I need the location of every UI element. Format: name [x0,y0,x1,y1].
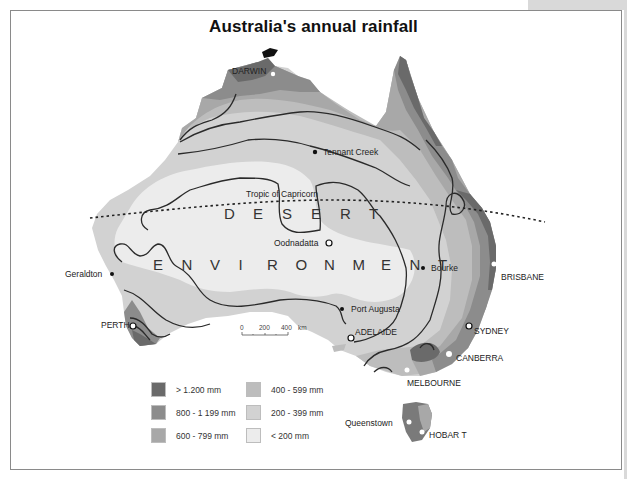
marker-queenstown [407,420,412,425]
scale-unit: km [298,324,307,331]
marker-darwin [271,72,275,76]
scale-tick-400: 400 [281,324,292,331]
legend-swatch [151,382,166,397]
label-perth: PERTH [101,320,130,330]
legend-swatch [246,382,261,397]
label-darwin: DARWIN [232,66,266,76]
scale-bar [242,332,288,335]
label-hobart: HOBAR T [429,430,467,440]
legend-item-over-1200: > 1.200 mm [151,382,221,397]
marker-tennant-creek [313,150,317,154]
legend-item-800-1199: 800 - 1 199 mm [151,405,236,420]
marker-port-augusta [340,307,344,311]
marker-canberra [446,351,452,357]
label-geraldton: Geraldton [65,269,102,279]
label-adelaide: ADELAIDE [355,327,397,337]
label-queenstown: Queenstown [345,418,393,428]
marker-hobart [420,430,425,435]
label-oodnadatta: Oodnadatta [274,238,318,248]
marker-adelaide [348,335,354,341]
label-port-augusta: Port Augusta [351,304,400,314]
label-tennant-creek: Tennant Creek [323,147,378,157]
marker-brisbane [492,262,497,267]
legend-swatch [151,428,166,443]
legend-swatch [151,405,166,420]
scale-tick-0: 0 [240,324,244,331]
label-tropic-of-capricorn: Tropic of Capricorn [246,189,318,199]
marker-perth [130,323,136,329]
legend-swatch [246,405,261,420]
marker-melbourne [405,368,410,373]
label-melbourne: MELBOURNE [407,378,461,388]
legend-item-600-799: 600 - 799 mm [151,428,228,443]
environment-label: ENVIRONMENT [153,256,467,273]
marker-oodnadatta [326,240,332,246]
legend-swatch [246,428,261,443]
tiwi-islands [262,48,278,58]
marker-geraldton [110,272,114,276]
scale-tick-200: 200 [259,324,270,331]
desert-label: DESERT [224,205,398,222]
legend-item-under-200: < 200 mm [246,428,309,443]
marker-sydney [466,323,472,329]
label-sydney: SYDNEY [474,326,509,336]
legend-item-200-399: 200 - 399 mm [246,405,323,420]
label-brisbane: BRISBANE [501,272,544,282]
label-canberra: CANBERRA [456,353,503,363]
legend-item-400-599: 400 - 599 mm [246,382,323,397]
